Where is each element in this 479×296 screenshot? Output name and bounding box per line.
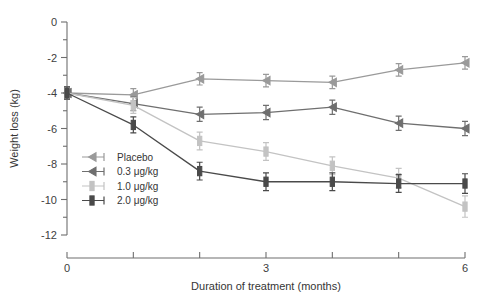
legend-swatch-marker: [90, 196, 94, 205]
legend-item[interactable]: 2.0 μg/kg: [82, 195, 158, 206]
legend-label: 0.3 μg/kg: [117, 166, 158, 177]
x-axis-title: Duration of treatment (months): [191, 280, 341, 292]
y-tick-label: 0: [51, 16, 57, 28]
data-point-marker: [330, 161, 334, 170]
y-tick-label: -12: [41, 229, 57, 241]
legend-label: 2.0 μg/kg: [117, 195, 158, 206]
y-tick-label: -10: [41, 194, 57, 206]
legend-item[interactable]: 0.3 μg/kg: [82, 166, 158, 177]
legend-label: 1.0 μg/kg: [117, 181, 158, 192]
y-tick-label: -8: [47, 158, 57, 170]
y-tick-label: -2: [47, 52, 57, 64]
x-tick-label: 6: [462, 262, 468, 274]
y-tick-label: -6: [47, 123, 57, 135]
data-point-marker: [131, 101, 135, 110]
legend-label: Placebo: [117, 152, 154, 163]
data-point-marker: [264, 147, 268, 156]
y-tick-label: -4: [47, 87, 57, 99]
x-tick-label: 0: [64, 262, 70, 274]
weight-loss-line-chart: 0-2-4-6-8-10-12Weight loss (kg)036Durati…: [0, 0, 479, 296]
data-point-marker: [463, 202, 467, 211]
x-tick-label: 3: [263, 262, 269, 274]
data-point-marker: [463, 179, 467, 188]
legend-swatch-marker: [89, 153, 96, 161]
legend-swatch-marker: [89, 167, 96, 175]
data-point-marker: [330, 177, 334, 186]
y-axis-title: Weight loss (kg): [8, 89, 20, 168]
chart-canvas: 0-2-4-6-8-10-12Weight loss (kg)036Durati…: [0, 0, 479, 296]
legend-swatch-marker: [90, 181, 94, 190]
legend-item[interactable]: Placebo: [82, 152, 154, 163]
data-point-marker: [131, 120, 135, 129]
data-point-marker: [397, 179, 401, 188]
data-point-marker: [264, 177, 268, 186]
data-point-marker: [65, 88, 69, 97]
data-point-marker: [198, 167, 202, 176]
data-point-marker: [198, 136, 202, 145]
series-placebo: [64, 57, 469, 101]
legend-item[interactable]: 1.0 μg/kg: [82, 181, 158, 192]
